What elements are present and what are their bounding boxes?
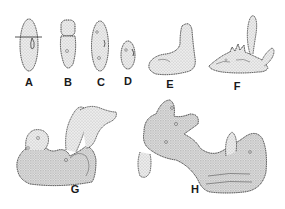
- label-e: E: [166, 79, 173, 90]
- cell-h: [138, 100, 267, 193]
- label-f: F: [234, 81, 241, 92]
- cell-g: [17, 106, 117, 185]
- label-g: G: [71, 184, 80, 195]
- cell-e: [149, 24, 195, 75]
- cell-a: [15, 19, 42, 71]
- label-d: D: [124, 76, 132, 87]
- label-b: B: [64, 77, 72, 88]
- cell-c: [92, 21, 109, 71]
- cell-f: [209, 16, 274, 73]
- cell-b: [60, 20, 75, 68]
- label-a: A: [25, 77, 33, 88]
- label-h: H: [191, 184, 199, 195]
- label-c: C: [97, 77, 105, 88]
- cell-d: [121, 41, 135, 69]
- ciliate-figure: [0, 0, 285, 209]
